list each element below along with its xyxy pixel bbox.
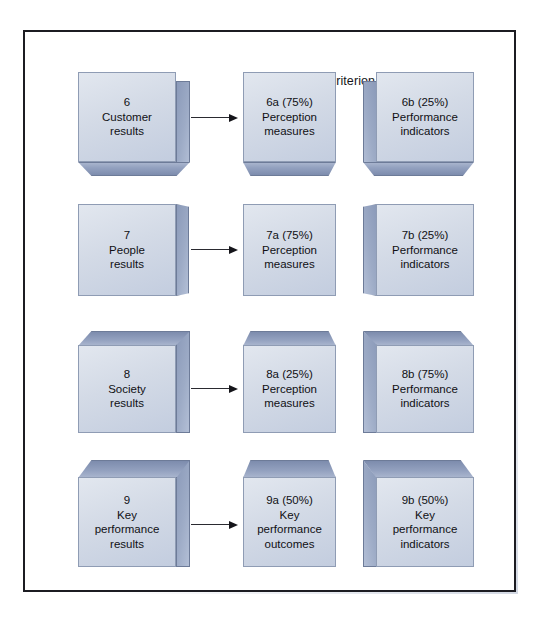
box-front-face: 7 People results [78,204,176,296]
box-front-face: 6a (75%) Perception measures [243,72,336,162]
criterion-box-6[interactable]: 6 Customer results [78,72,176,162]
box-front-face: 6b (25%) Performance indicators [376,72,474,162]
criterion-box-9[interactable]: 9 Key performance results [78,477,176,567]
box-front-face: 7b (25%) Performance indicators [376,204,474,296]
criterion-label: 8 Society results [105,367,149,411]
criterion-part-box-8a[interactable]: 8a (25%) Perception measures [243,345,336,433]
criterion-part-box-8b[interactable]: 8b (75%) Performance indicators [376,345,474,433]
criterion-label: 6 Customer results [99,95,155,139]
box-side-face [363,331,377,433]
box-top-face [78,331,190,346]
criterion-part-box-6b[interactable]: 6b (25%) Performance indicators [376,72,474,162]
box-front-face: 7a (75%) Perception measures [243,204,336,296]
box-side-face [176,331,190,433]
box-top-face [363,331,474,346]
arrow-row-4 [191,519,239,531]
criterion-part-box-9b[interactable]: 9b (50%) Key performance indicators [376,477,474,567]
criterion-part-box-7a[interactable]: 7a (75%) Perception measures [243,204,336,296]
box-side-face [363,204,377,296]
box-front-face: 8 Society results [78,345,176,433]
box-front-face: 9b (50%) Key performance indicators [376,477,474,567]
arrow-row-1 [191,112,239,124]
criterion-label: 7 People results [106,228,148,272]
arrow-row-2 [191,244,239,256]
criterion-part-label: 6a (75%) Perception measures [259,95,320,139]
box-front-face: 9a (50%) Key performance outcomes [243,477,336,567]
criterion-part-box-9a[interactable]: 9a (50%) Key performance outcomes [243,477,336,567]
criterion-part-box-6a[interactable]: 6a (75%) Perception measures [243,72,336,162]
box-bottom-face [243,162,336,176]
criterion-part-label: 9a (50%) Key performance outcomes [254,493,325,551]
arrow-row-3 [191,383,239,395]
criterion-part-box-7b[interactable]: 7b (25%) Performance indicators [376,204,474,296]
criterion-part-label: 8b (75%) Performance indicators [389,367,461,411]
criterion-part-label: 8a (25%) Perception measures [259,367,320,411]
box-bottom-face [363,162,474,176]
criterion-part-label: 9b (50%) Key performance indicators [390,493,461,551]
criterion-part-label: 7b (25%) Performance indicators [389,228,461,272]
criterion-label: 9 Key performance results [92,493,163,551]
box-front-face: 6 Customer results [78,72,176,162]
box-side-face [176,81,190,171]
box-side-face [176,204,189,296]
box-top-face [243,331,336,346]
box-top-face [243,460,336,478]
box-top-face [78,460,190,478]
criterion-part-label: 6b (25%) Performance indicators [389,95,461,139]
box-side-face [176,460,190,567]
criterion-box-8[interactable]: 8 Society results [78,345,176,433]
box-side-face [363,81,377,171]
diagram-frame: Criterion Criterion parts 6 Customer res… [23,30,516,592]
box-top-face [363,460,474,478]
criterion-box-7[interactable]: 7 People results [78,204,176,296]
box-bottom-face [78,162,190,176]
box-front-face: 8a (25%) Perception measures [243,345,336,433]
box-side-face [363,460,377,567]
criterion-part-label: 7a (75%) Perception measures [259,228,320,272]
box-front-face: 9 Key performance results [78,477,176,567]
box-front-face: 8b (75%) Performance indicators [376,345,474,433]
